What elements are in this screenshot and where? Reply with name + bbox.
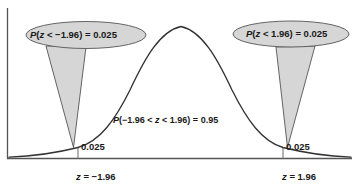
- right-callout-label: P(z < 1.96) = 0.025: [246, 29, 327, 39]
- left-tail-area-value: 0.025: [81, 142, 105, 152]
- left-callout-equals: =: [82, 29, 93, 40]
- left-callout-relation: <: [44, 29, 55, 40]
- left-callout-tail: [46, 46, 86, 148]
- right-axis-tick-label: z = 1.96: [282, 172, 316, 182]
- right-callout-relation: <: [260, 28, 271, 39]
- center-relation-2: <: [160, 115, 170, 125]
- center-relation-1: <: [145, 115, 155, 125]
- center-value: 0.95: [201, 115, 219, 125]
- right-callout-equals: =: [293, 28, 304, 39]
- left-callout-bound: −1.96: [55, 29, 79, 40]
- right-callout-value: 0.025: [304, 28, 328, 39]
- center-lower-bound: −1.96: [122, 115, 145, 125]
- center-upper-bound: 1.96: [170, 115, 188, 125]
- right-axis-value: 1.96: [298, 171, 317, 182]
- left-axis-equals: =: [81, 171, 92, 182]
- left-axis-tick-label: z = −1.96: [76, 172, 116, 182]
- left-callout-label: P(z < −1.96) = 0.025: [30, 30, 117, 40]
- center-equals: =: [190, 115, 200, 125]
- right-tail-area-value: 0.025: [286, 142, 310, 152]
- left-axis-value: −1.96: [92, 171, 116, 182]
- central-probability-label: P(−1.96 < z < 1.96) = 0.95: [113, 116, 218, 125]
- right-callout-tail: [276, 46, 315, 148]
- right-callout-bound: 1.96: [271, 28, 290, 39]
- left-callout-value: 0.025: [93, 29, 117, 40]
- right-axis-equals: =: [287, 171, 298, 182]
